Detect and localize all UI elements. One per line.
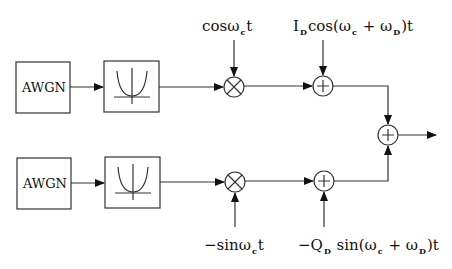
interferer-label-bottom: −QD sin(ωc + ωD)t [298, 238, 439, 255]
bandpass-filter-icon [114, 68, 150, 104]
carrier-label-bottom: −sinωct [204, 238, 264, 255]
awgn-label-bottom: AWGN [17, 177, 73, 190]
carrier-label-top: cosωct [202, 19, 252, 36]
interferer-label-top: IDcos(ωc + ωD)t [293, 19, 413, 36]
diagram-lines [0, 0, 452, 269]
bandpass-filter-icon [115, 164, 151, 200]
block-diagram: AWGN AWGN cosωct IDcos(ωc + ωD)t −sinωct… [0, 0, 452, 269]
awgn-label-top: AWGN [16, 81, 72, 94]
